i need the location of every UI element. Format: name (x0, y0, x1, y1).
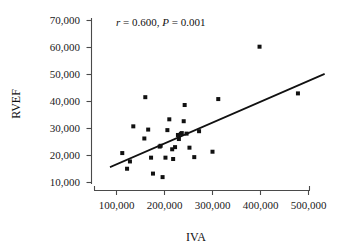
x-tick-label-100000: 100,000 (99, 199, 135, 211)
annotation-correlation: r = 0.600, P = 0.001 (116, 16, 205, 28)
data-point (183, 103, 187, 107)
y-axis (87, 18, 92, 184)
x-axis-title: IVA (186, 230, 206, 244)
data-point (296, 91, 300, 95)
data-point (163, 156, 167, 160)
data-point (180, 131, 184, 135)
data-point (165, 128, 169, 132)
x-tick-label-400000: 400,000 (243, 199, 279, 211)
y-tick-label-30000: 30,000 (50, 122, 81, 134)
data-point (192, 155, 196, 159)
data-point (143, 95, 147, 99)
data-point (142, 136, 146, 140)
data-point (216, 97, 220, 101)
data-point (173, 145, 177, 149)
p-value-text: = 0.001 (172, 16, 206, 28)
data-point (185, 132, 189, 136)
data-point (128, 159, 132, 163)
y-tick-label-40000: 40,000 (50, 95, 81, 107)
data-point (177, 137, 181, 141)
data-point (197, 129, 201, 133)
r-value-text: = 0.600, (123, 16, 160, 28)
regression-line (111, 74, 324, 167)
data-point (151, 172, 155, 176)
y-tick-label-60000: 60,000 (50, 41, 81, 53)
data-point (149, 156, 153, 160)
data-point (125, 167, 129, 171)
x-tick-label-300000: 300,000 (195, 199, 231, 211)
data-points-group (120, 45, 300, 179)
y-axis-tick-labels: 70,000 60,000 50,000 40,000 30,000 20,00… (50, 14, 81, 188)
data-point (120, 151, 124, 155)
y-axis-title: RVEF (9, 89, 23, 119)
data-point (161, 175, 165, 179)
data-point (258, 45, 262, 49)
data-point (187, 146, 191, 150)
correlation-annotation-text: r = 0.600, P = 0.001 (116, 16, 205, 28)
scatter-plot-figure: 70,000 60,000 50,000 40,000 30,000 20,00… (0, 0, 341, 252)
x-tick-label-200000: 200,000 (147, 199, 183, 211)
data-point (211, 150, 215, 154)
chart-canvas: 70,000 60,000 50,000 40,000 30,000 20,00… (0, 0, 341, 252)
data-point (167, 117, 171, 121)
y-tick-label-20000: 20,000 (50, 149, 81, 161)
data-point (182, 119, 186, 123)
x-axis-tick-labels: 100,000 200,000 300,000 400,000 500,000 (99, 199, 327, 211)
data-point (131, 124, 135, 128)
y-tick-label-50000: 50,000 (50, 68, 81, 80)
x-tick-label-500000: 500,000 (291, 199, 327, 211)
data-point (158, 145, 162, 149)
y-tick-label-70000: 70,000 (50, 14, 81, 26)
y-tick-label-10000: 10,000 (50, 176, 81, 188)
data-point (146, 128, 150, 132)
data-point (171, 157, 175, 161)
regression-line-group (111, 74, 324, 167)
x-axis (94, 186, 310, 195)
